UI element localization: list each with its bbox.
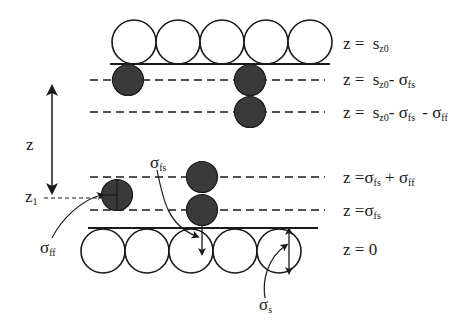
solid-particle bbox=[200, 20, 244, 64]
eq-top-wall: z = sz0 bbox=[343, 34, 389, 54]
solid-particle bbox=[81, 229, 125, 273]
eq-bottom-wall: z = 0 bbox=[343, 240, 377, 259]
fluid-particle bbox=[235, 65, 266, 96]
solid-particle bbox=[125, 229, 169, 273]
eq-level-1: z = sz0- σfs bbox=[343, 70, 415, 90]
fluid-particle bbox=[113, 65, 144, 96]
eq-level-3: z =σfs + σff bbox=[343, 168, 415, 188]
fluid-particle bbox=[187, 162, 218, 193]
solid-particle bbox=[169, 229, 213, 273]
diagram-canvas: z z1 σff σfs σs z = sz0 z = sz0- σfs z =… bbox=[0, 0, 461, 322]
fluid-particle bbox=[235, 97, 266, 128]
sigma-fs-label: σfs bbox=[150, 153, 167, 173]
solid-particle bbox=[213, 229, 257, 273]
solid-particle bbox=[244, 20, 288, 64]
bottom-wall-particles bbox=[81, 229, 301, 273]
fluid-particle bbox=[187, 195, 218, 226]
solid-particle bbox=[288, 20, 332, 64]
fluid-particles bbox=[102, 65, 266, 226]
eq-level-4: z =σfs bbox=[343, 201, 381, 221]
solid-particle bbox=[156, 20, 200, 64]
sigma-ff-label: σff bbox=[40, 238, 56, 258]
eq-level-2: z = sz0- σfs - σff bbox=[343, 103, 449, 123]
top-wall-particles bbox=[112, 20, 332, 64]
z1-label: z1 bbox=[25, 187, 38, 207]
solid-particle bbox=[112, 20, 156, 64]
sigma-s-label: σs bbox=[259, 295, 272, 315]
z-axis-label: z bbox=[26, 135, 34, 154]
